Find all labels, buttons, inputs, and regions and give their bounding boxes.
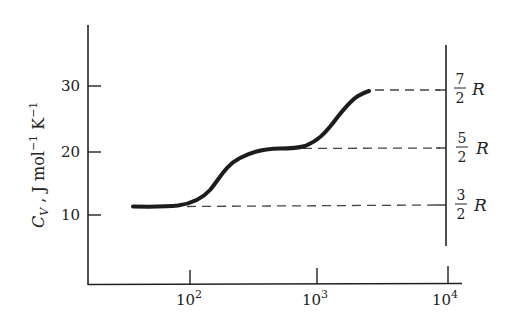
frac-den: 2: [456, 90, 465, 106]
y-axis-symbol: C: [29, 216, 48, 228]
x-tick-base: 10: [432, 291, 451, 309]
x-tick-label-10000: 104: [432, 288, 458, 309]
x-tick-label-100: 102: [176, 288, 202, 309]
x-tick-exp: 2: [195, 288, 202, 301]
x-tick-base: 10: [302, 291, 321, 309]
frac-num: 3: [457, 187, 466, 203]
label-3-2-R: 3 2 R: [455, 187, 487, 222]
frac-den: 2: [458, 149, 467, 165]
frac-num: 7: [456, 71, 465, 87]
ref-line-5-2-R: [288, 148, 440, 149]
x-tick-label-1000: 103: [302, 288, 328, 309]
chart-canvas: 30 20 10 102 103 104 CV , J mol−1 K−1 7 …: [0, 0, 518, 330]
y-axis-units: , J mol: [29, 151, 48, 208]
frac-num: 5: [458, 130, 467, 146]
y-axis-k: K: [29, 117, 48, 135]
y-axis-exp1: −1: [27, 135, 40, 151]
x-axis: [88, 284, 462, 285]
frac-den: 2: [457, 206, 466, 222]
label-5-2-R: 5 2 R: [456, 130, 489, 165]
x-tick-exp: 3: [321, 288, 328, 301]
x-tick-base: 10: [176, 291, 195, 309]
r-symbol: R: [471, 79, 485, 99]
y-axis-exp2: −1: [27, 102, 40, 118]
y-tick-label-20: 20: [61, 143, 80, 161]
r-symbol: R: [475, 138, 489, 158]
label-7-2-R: 7 2 R: [454, 71, 485, 106]
x-tick-exp: 4: [451, 288, 458, 301]
y-tick-label-10: 10: [61, 206, 80, 224]
y-axis-title: CV , J mol−1 K−1: [27, 102, 51, 228]
y-tick-label-30: 30: [61, 77, 80, 95]
r-symbol: R: [473, 195, 487, 215]
ref-line-3-2-R: [187, 205, 440, 207]
